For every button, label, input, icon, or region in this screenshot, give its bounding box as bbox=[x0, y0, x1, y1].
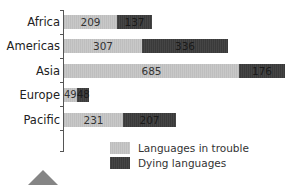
category-label-europe: Europe bbox=[20, 88, 60, 102]
legend-swatch-dying bbox=[110, 157, 130, 169]
category-label-pacific: Pacific bbox=[23, 113, 60, 127]
axis-tick bbox=[60, 82, 63, 83]
category-label-africa: Africa bbox=[27, 15, 60, 29]
bar-asia-dying: 176 bbox=[239, 64, 285, 78]
axis-tick bbox=[60, 106, 63, 107]
axis-tick bbox=[60, 58, 63, 59]
bar-asia-trouble: 685 bbox=[64, 64, 239, 78]
legend-label-dying: Dying languages bbox=[138, 157, 226, 169]
legend-swatch-trouble bbox=[110, 142, 130, 154]
axis-tick bbox=[60, 151, 63, 152]
category-label-asia: Asia bbox=[36, 64, 60, 78]
category-label-americas: Americas bbox=[7, 39, 60, 53]
bar-africa-trouble: 209 bbox=[64, 15, 117, 29]
bar-europe-dying: 48 bbox=[77, 88, 89, 102]
bar-americas-dying: 336 bbox=[142, 39, 228, 53]
axis-tick bbox=[60, 10, 63, 11]
bar-pacific-dying: 207 bbox=[123, 113, 176, 127]
bar-americas-trouble: 307 bbox=[64, 39, 142, 53]
bar-pacific-trouble: 231 bbox=[64, 113, 123, 127]
axis-tick bbox=[60, 130, 63, 131]
category-axis bbox=[63, 10, 64, 152]
axis-tick bbox=[60, 34, 63, 35]
bar-europe-trouble: 49 bbox=[64, 88, 77, 102]
bar-africa-dying: 137 bbox=[117, 15, 152, 29]
legend-label-trouble: Languages in trouble bbox=[138, 142, 249, 154]
decorative-triangle-icon bbox=[28, 170, 58, 185]
